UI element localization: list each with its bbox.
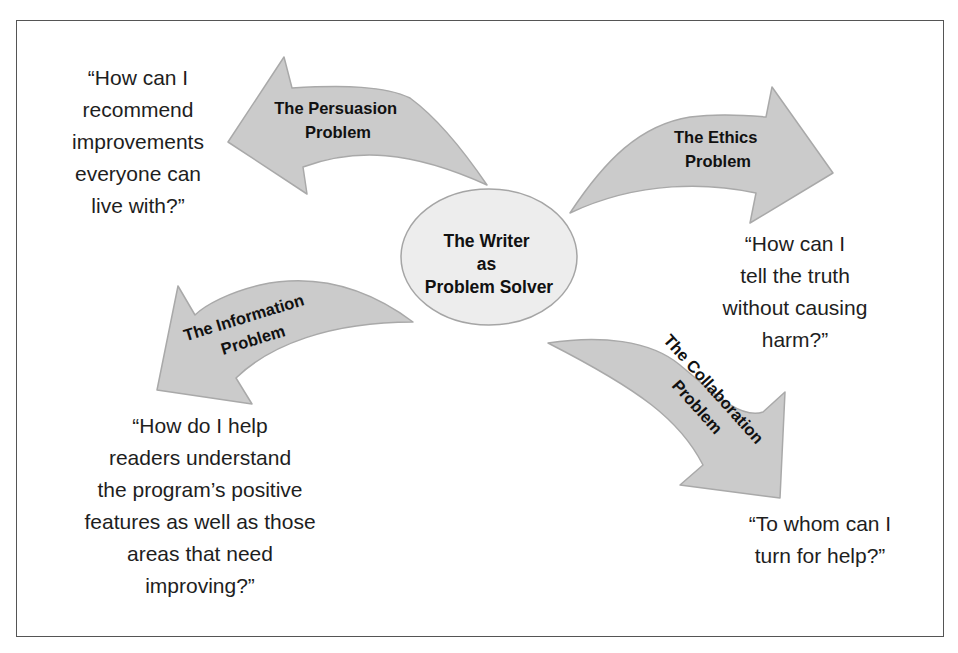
ethics-question: “How can I tell the truth without causin… [685, 228, 905, 356]
information-arrow: The Information Problem [157, 281, 413, 404]
ethics-arrow: The Ethics Problem [570, 87, 833, 223]
central-hub: The Writer as Problem Solver [401, 189, 577, 325]
information-question: “How do I help readers understand the pr… [60, 410, 340, 602]
persuasion-arrow: The Persuasion Problem [228, 57, 487, 194]
collaboration-question: “To whom can I turn for help?” [710, 508, 930, 572]
persuasion-question: “How can I recommend improvements everyo… [48, 62, 228, 222]
